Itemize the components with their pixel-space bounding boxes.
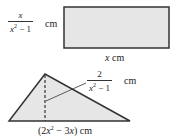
tri-height-numerator: 2: [95, 70, 104, 79]
rectangle-shape: [64, 7, 169, 48]
fraction-bar: [8, 21, 33, 22]
rect-height-denominator: x2 − 1: [8, 23, 33, 34]
tri-base-label: (2x2 − 3x) cm: [38, 125, 92, 136]
tri-height-unit: cm: [124, 76, 136, 86]
rect-height-numerator: x: [17, 11, 25, 20]
fraction-bar: [87, 80, 112, 81]
rect-width-label: x cm: [105, 53, 124, 63]
tri-height-fraction: 2 x2 − 1: [87, 70, 112, 93]
rect-height-unit: cm: [45, 19, 57, 29]
tri-height-denominator: x2 − 1: [87, 82, 112, 93]
rect-height-fraction: x x2 − 1: [8, 11, 33, 34]
